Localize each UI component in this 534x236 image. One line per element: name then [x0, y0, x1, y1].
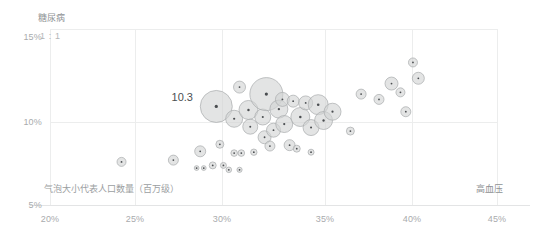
data-label-annotation: 10.3: [172, 91, 193, 103]
bubble-center-dot: [305, 102, 307, 104]
bubble-center-dot: [273, 129, 275, 131]
y-axis-title: 糖尿病: [38, 11, 65, 24]
bubble-center-dot: [378, 99, 380, 101]
bubble-center-dot: [349, 130, 351, 132]
bubble-center-dot: [322, 119, 324, 121]
bubble-center-dot: [331, 111, 333, 113]
bubble-center-dot: [196, 167, 198, 169]
bubble-center-dot: [249, 126, 251, 128]
bubble-center-dot: [203, 167, 205, 169]
bubble-center-dot: [412, 62, 414, 64]
bubble-center-dot: [269, 145, 271, 147]
bubble-center-dot: [360, 93, 362, 95]
bubble-center-dot: [310, 127, 312, 129]
bubble-center-dot: [215, 105, 218, 108]
y-tick-label-15: 15%: [14, 32, 42, 42]
bubble-center-dot: [247, 109, 249, 111]
bubble-center-dot: [240, 152, 242, 154]
bubble-chart: 糖尿病 1 : 1 10.3 气泡大小代表人口数量（百万级） 高血压 15% 1…: [0, 0, 534, 236]
bubble-center-dot: [233, 118, 235, 120]
bubble-center-dot: [265, 93, 268, 96]
x-tick-label-45: 45%: [488, 214, 507, 224]
x-tick-label-25: 25%: [126, 214, 145, 224]
bubble-center-dot: [228, 169, 230, 171]
bubble-center-dot: [199, 150, 201, 152]
bubble-center-dot: [310, 151, 312, 153]
bubble-center-dot: [283, 123, 285, 125]
bubble-center-dot: [317, 103, 320, 106]
bubble-center-dot: [289, 144, 291, 146]
x-tick-label-20: 20%: [41, 214, 60, 224]
bubble-center-dot: [233, 152, 235, 154]
bubble-center-dot: [172, 159, 174, 161]
bubble-center-dot: [292, 100, 294, 102]
bubble-center-dot: [212, 165, 214, 167]
x-tick-label-30: 30%: [213, 214, 232, 224]
bubble-center-dot: [278, 108, 280, 110]
bubble-center-dot: [223, 165, 225, 167]
bubble-center-dot: [405, 111, 407, 113]
bubble-center-dot: [391, 83, 393, 85]
bubble-center-dot: [262, 116, 264, 118]
bubble-center-dot: [219, 143, 221, 145]
y-tick-label-10: 10%: [14, 117, 42, 127]
bubble-center-dot: [296, 148, 298, 150]
x-tick-label-35: 35%: [316, 214, 335, 224]
bubble-series-layer: [0, 0, 534, 236]
bubble-center-dot: [299, 116, 301, 118]
x-axis-title: 高血压: [476, 182, 503, 195]
bubble-center-dot: [121, 161, 123, 163]
x-tick-label-40: 40%: [403, 214, 422, 224]
bubble-center-dot: [253, 151, 255, 153]
bubble-center-dot: [282, 98, 284, 100]
reference-line-label: 1 : 1: [40, 31, 61, 41]
bubble-center-dot: [239, 86, 241, 88]
bubble-center-dot: [417, 77, 419, 79]
bubble-size-note: 气泡大小代表人口数量（百万级）: [44, 182, 179, 195]
bubble-center-dot: [239, 169, 241, 171]
y-tick-label-5: 5%: [14, 200, 42, 210]
bubble-center-dot: [264, 136, 266, 138]
bubble-center-dot: [400, 91, 402, 93]
